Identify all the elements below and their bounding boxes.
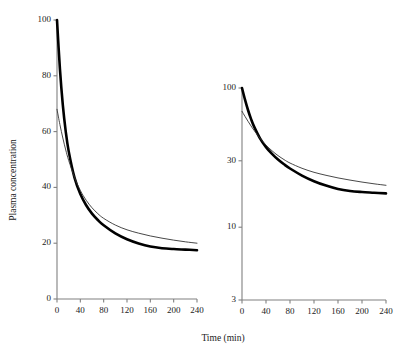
panel-semilog-y-ticklabel: 10 <box>227 221 237 231</box>
panel-linear-x-ticklabel: 0 <box>55 305 60 315</box>
panel-semilog-curve-thick <box>242 88 386 193</box>
panel-linear-x-ticklabel: 240 <box>190 305 204 315</box>
panel-semilog-y-ticklabel: 3 <box>232 294 237 304</box>
panel-semilog-x-ticklabel: 40 <box>262 306 272 316</box>
x-axis-title: Time (min) <box>201 333 244 344</box>
panel-semilog-x-ticklabel: 240 <box>379 306 393 316</box>
panel-semilog-x-ticklabel: 80 <box>286 306 296 316</box>
panel-semilog-x-ticklabel: 120 <box>307 306 321 316</box>
panel-semilog-y-ticklabel: 30 <box>227 155 237 165</box>
panel-linear-curve-thin <box>57 109 197 243</box>
panel-semilog-x-ticklabel: 160 <box>331 306 345 316</box>
panel-linear-y-ticklabel: 0 <box>47 293 52 303</box>
figure-panel-pair: 0204060801000408012016020024031030100040… <box>0 0 409 361</box>
panel-linear-x-ticklabel: 120 <box>120 305 134 315</box>
y-axis-title: Plasma concentration <box>8 139 18 221</box>
panel-linear-curve-thick <box>57 20 197 250</box>
panel-linear-x-ticklabel: 40 <box>76 305 86 315</box>
panel-linear-y-ticklabel: 100 <box>38 14 52 24</box>
panel-linear-y-ticklabel: 80 <box>42 70 52 80</box>
panel-semilog-x-ticklabel: 0 <box>240 306 245 316</box>
panel-linear-y-ticklabel: 60 <box>42 126 52 136</box>
panel-linear-x-ticklabel: 160 <box>144 305 158 315</box>
pk-curves-figure: 0204060801000408012016020024031030100040… <box>0 0 409 361</box>
panel-linear-x-ticklabel: 200 <box>167 305 181 315</box>
panel-linear-x-ticklabel: 80 <box>99 305 109 315</box>
panel-semilog-x-ticklabel: 200 <box>355 306 369 316</box>
panel-semilog-curve-thin <box>242 111 386 185</box>
panel-linear-y-ticklabel: 20 <box>42 237 52 247</box>
panel-semilog-y-ticklabel: 100 <box>223 82 237 92</box>
panel-linear-y-ticklabel: 40 <box>42 181 52 191</box>
